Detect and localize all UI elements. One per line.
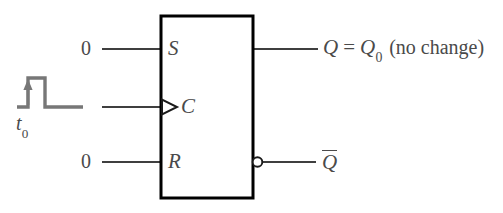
diagram-canvas bbox=[0, 0, 503, 213]
pulse-time-label: t0 bbox=[16, 113, 28, 137]
pulse-time-label-symbol: t bbox=[16, 112, 22, 134]
qbar-output-label: Q bbox=[322, 150, 337, 173]
q-output-symbol: Q bbox=[323, 35, 338, 59]
pin-label-r: R bbox=[168, 151, 181, 172]
q-output-note: (no change) bbox=[382, 36, 484, 58]
q-output-value-symbol: Q bbox=[360, 35, 375, 59]
r-input-value: 0 bbox=[81, 151, 91, 171]
s-input-value: 0 bbox=[81, 38, 91, 58]
pin-label-c: C bbox=[181, 96, 195, 117]
q-output-label: Q=Q0(no change) bbox=[323, 37, 484, 62]
clock-pulse-waveform bbox=[17, 78, 83, 107]
logic-diagram-figure: S C R 0 0 t0 Q=Q0(no change) Q bbox=[0, 0, 503, 213]
rising-edge-arrow-icon bbox=[23, 79, 32, 105]
q-output-value-subscript: 0 bbox=[375, 50, 382, 65]
q-output-equals: = bbox=[338, 35, 360, 59]
pin-label-s: S bbox=[168, 38, 179, 59]
pulse-time-label-subscript: 0 bbox=[22, 126, 29, 141]
qbar-output-symbol: Q bbox=[322, 150, 337, 173]
inversion-bubble-icon bbox=[253, 157, 263, 167]
